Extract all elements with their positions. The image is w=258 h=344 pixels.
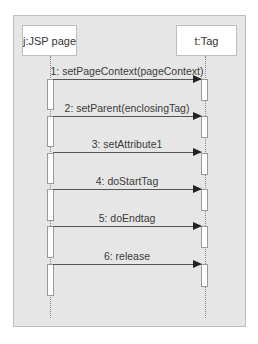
arrowhead-icon xyxy=(193,148,202,156)
message-arrow-6 xyxy=(53,264,201,265)
activation-tag-1 xyxy=(201,79,208,101)
activation-tag-5 xyxy=(201,226,208,248)
message-label-5: 5: doEndtag xyxy=(99,212,156,224)
activation-jsp-1 xyxy=(47,79,54,110)
message-arrow-4 xyxy=(53,189,201,190)
arrowhead-icon xyxy=(193,260,202,268)
participant-tag: t:Tag xyxy=(176,25,237,56)
message-label-3: 3: setAttribute1 xyxy=(92,138,163,150)
activation-jsp-4 xyxy=(47,189,54,221)
participant-label: j:JSP page xyxy=(23,35,76,47)
participant-label: t:Tag xyxy=(195,35,219,47)
message-label-1: 1: setPageContext(pageContext) xyxy=(51,65,204,77)
activation-jsp-3 xyxy=(47,153,54,184)
message-label-2: 2: setParent(enclosingTag) xyxy=(65,102,190,114)
arrowhead-icon xyxy=(193,222,202,230)
activation-tag-2 xyxy=(201,116,208,138)
message-arrow-3 xyxy=(53,152,201,153)
participant-jsp-page: j:JSP page xyxy=(22,25,77,56)
activation-jsp-2 xyxy=(47,116,54,147)
activation-tag-6 xyxy=(201,264,208,287)
arrowhead-icon xyxy=(193,185,202,193)
message-arrow-1 xyxy=(53,79,201,80)
arrowhead-icon xyxy=(193,112,202,120)
message-label-6: 6: release xyxy=(104,250,150,262)
activation-jsp-5 xyxy=(47,226,54,258)
activation-jsp-6 xyxy=(47,264,54,296)
message-arrow-5 xyxy=(53,226,201,227)
activation-tag-3 xyxy=(201,153,208,175)
message-arrow-2 xyxy=(53,116,201,117)
activation-tag-4 xyxy=(201,189,208,211)
message-label-4: 4: doStartTag xyxy=(96,175,158,187)
